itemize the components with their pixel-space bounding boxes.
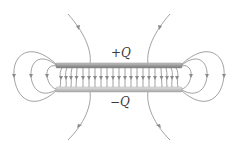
- capacitor-diagram: +Q −Q: [0, 0, 238, 149]
- left-loop-arrows: [12, 74, 49, 78]
- right-fringe-field-lines: [182, 52, 224, 102]
- right-loop-arrows: [189, 74, 226, 78]
- negative-charge-label: −Q: [110, 96, 130, 108]
- top-plate: [56, 63, 182, 68]
- field-lines-svg: [0, 0, 238, 149]
- left-fringe-field-lines: [14, 52, 56, 102]
- positive-charge-label: +Q: [111, 47, 131, 59]
- bottom-plate: [56, 87, 182, 92]
- interior-arrows: [59, 76, 179, 80]
